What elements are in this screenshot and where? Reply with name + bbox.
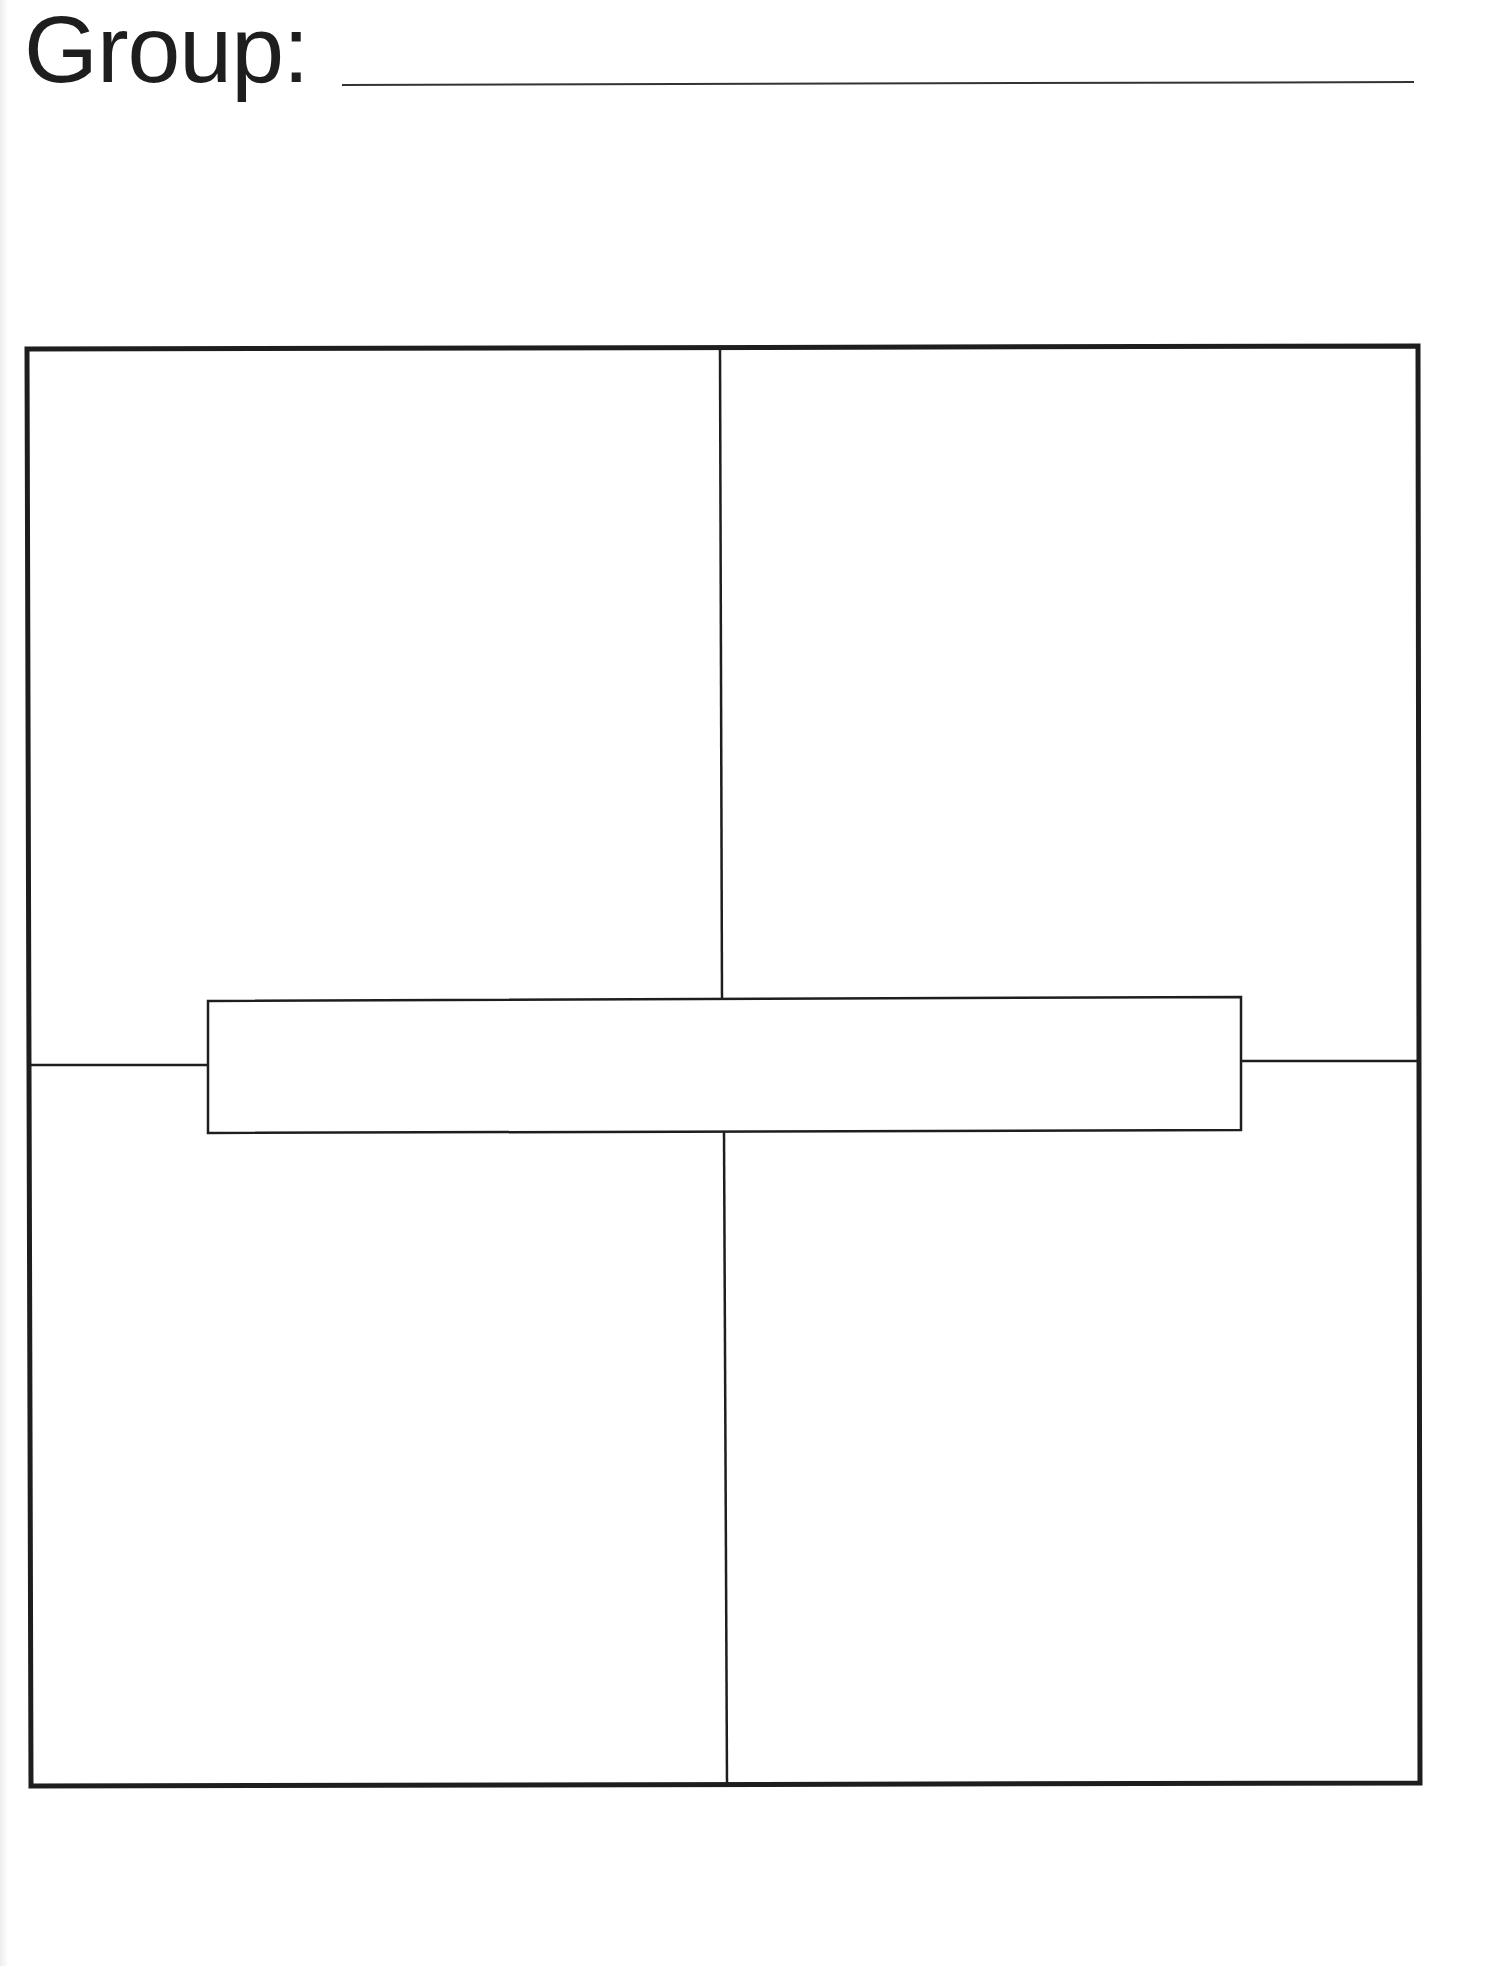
upper-vertical-divider bbox=[720, 349, 722, 999]
center-topic-box[interactable] bbox=[208, 999, 1241, 1131]
quadrant-bottom-left[interactable] bbox=[34, 1135, 722, 1782]
lower-vertical-divider bbox=[724, 1131, 727, 1784]
quadrant-top-left[interactable] bbox=[32, 354, 718, 997]
four-square-organizer bbox=[0, 0, 1501, 1966]
quadrant-top-right[interactable] bbox=[724, 351, 1416, 995]
quadrant-bottom-right[interactable] bbox=[729, 1133, 1417, 1781]
